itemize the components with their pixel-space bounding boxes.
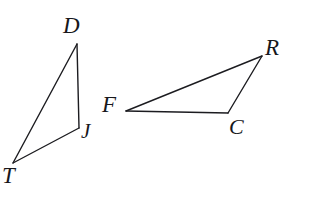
vertex-label-F: F xyxy=(102,93,116,116)
vertex-label-J: J xyxy=(81,121,90,142)
edge-RC xyxy=(228,56,262,113)
diagram-vector-layer xyxy=(0,0,314,197)
geometry-diagram-canvas: D T J F R C xyxy=(0,0,314,197)
edge-CF xyxy=(126,111,228,113)
triangle-FRC xyxy=(126,56,262,113)
edge-TD xyxy=(13,44,77,163)
edge-DJ xyxy=(77,44,79,128)
vertex-label-D: D xyxy=(63,14,80,37)
edge-FR xyxy=(126,56,262,111)
triangle-DJT xyxy=(13,44,79,163)
vertex-label-R: R xyxy=(265,36,279,59)
vertex-label-T: T xyxy=(2,164,15,187)
vertex-label-C: C xyxy=(229,116,244,138)
